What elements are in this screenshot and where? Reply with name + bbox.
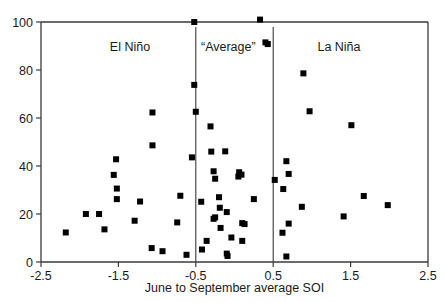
data-point xyxy=(96,211,102,217)
region-annotations: El Niño“Average”La Niña xyxy=(110,40,361,54)
data-point xyxy=(257,17,263,23)
data-point xyxy=(191,19,197,25)
data-point xyxy=(114,186,120,192)
y-axis-ticks: 020406080100 xyxy=(12,16,41,270)
data-point xyxy=(348,122,354,128)
data-point xyxy=(113,156,119,162)
y-tick-label: 60 xyxy=(19,112,33,126)
data-point xyxy=(222,148,228,154)
data-point xyxy=(286,221,292,227)
data-point xyxy=(111,172,117,178)
data-point xyxy=(132,218,138,224)
data-point xyxy=(208,123,214,129)
y-tick-label: 100 xyxy=(12,16,33,30)
data-point xyxy=(242,221,248,227)
data-point xyxy=(283,158,289,164)
x-axis-title: June to September average SOI xyxy=(145,281,324,295)
data-point xyxy=(211,168,217,174)
data-point xyxy=(385,202,391,208)
region-label-0: El Niño xyxy=(110,40,150,54)
axis-frame xyxy=(41,22,428,262)
data-point xyxy=(149,245,155,251)
data-point xyxy=(174,219,180,225)
data-point xyxy=(218,225,224,231)
data-point xyxy=(211,216,217,222)
data-point xyxy=(279,230,285,236)
data-point xyxy=(177,193,183,199)
data-point xyxy=(184,252,190,258)
y-tick-label: 80 xyxy=(19,64,33,78)
plot-canvas: -2.5-1.5-0.50.51.52.5 020406080100 El Ni… xyxy=(0,0,447,302)
y-tick-label: 0 xyxy=(26,256,33,270)
data-point xyxy=(286,171,292,177)
x-axis-ticks: -2.5-1.5-0.50.51.52.5 xyxy=(30,262,437,283)
data-point xyxy=(137,199,143,205)
scatter-plot-figure: -2.5-1.5-0.50.51.52.5 020406080100 El Ni… xyxy=(0,0,447,302)
data-point xyxy=(300,70,306,76)
data-point xyxy=(361,193,367,199)
data-point xyxy=(83,211,89,217)
data-point xyxy=(217,205,223,211)
y-tick-label: 40 xyxy=(19,160,33,174)
data-point xyxy=(114,196,120,202)
data-point xyxy=(224,209,230,215)
data-point xyxy=(239,238,245,244)
y-tick-label: 20 xyxy=(19,208,33,222)
data-point xyxy=(149,142,155,148)
data-point xyxy=(208,149,214,155)
data-point xyxy=(225,253,231,259)
x-tick-label: 1.5 xyxy=(342,269,359,283)
region-label-2: La Niña xyxy=(317,40,360,54)
x-tick-label: 2.5 xyxy=(419,269,436,283)
data-point xyxy=(251,196,257,202)
data-point xyxy=(228,235,234,241)
data-point xyxy=(160,248,166,254)
data-point xyxy=(212,176,218,182)
data-point xyxy=(341,213,347,219)
data-point xyxy=(191,82,197,88)
reference-lines-group xyxy=(196,27,273,262)
data-point xyxy=(238,172,244,178)
data-point xyxy=(272,177,278,183)
data-point xyxy=(204,238,210,244)
data-point xyxy=(265,41,271,47)
data-point xyxy=(283,253,289,259)
data-point xyxy=(63,229,69,235)
data-point xyxy=(280,186,286,192)
data-point xyxy=(299,204,305,210)
data-point xyxy=(216,194,222,200)
data-point xyxy=(307,108,313,114)
x-tick-label: -1.5 xyxy=(108,269,130,283)
region-label-1: “Average” xyxy=(201,40,256,54)
x-tick-label: -2.5 xyxy=(30,269,52,283)
data-point xyxy=(193,109,199,115)
data-point xyxy=(149,109,155,115)
data-point xyxy=(199,247,205,253)
data-point xyxy=(189,154,195,160)
data-point xyxy=(101,226,107,232)
data-point xyxy=(198,199,204,205)
